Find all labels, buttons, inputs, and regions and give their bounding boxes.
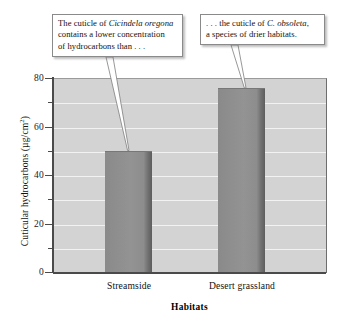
- right-callout-box: . . . the cuticle of C. obsoleta, a spec…: [200, 14, 325, 45]
- left-callout-line2: contains a lower concentration: [58, 29, 165, 39]
- right-callout-pointer: [231, 45, 246, 88]
- bar-chart-figure: 80 60 40 20 0 Cuticular hydrocarbons (µg…: [0, 0, 341, 328]
- left-callout-line3: of hydrocarbons than . . .: [58, 41, 145, 51]
- left-callout-pointer: [106, 57, 129, 151]
- left-callout-line1-prefix: The cuticle of: [58, 18, 109, 28]
- left-callout-box: The cuticle of Cicindela oregona contain…: [52, 14, 183, 57]
- right-callout-line1-prefix: . . . the cuticle of: [206, 18, 267, 28]
- right-callout-line2: a species of drier habitats.: [206, 29, 297, 39]
- right-callout-species-name: C. obsoleta: [267, 18, 307, 28]
- right-callout-line1-suffix: ,: [307, 18, 309, 28]
- left-callout-species-name: Cicindela oregona: [109, 18, 174, 28]
